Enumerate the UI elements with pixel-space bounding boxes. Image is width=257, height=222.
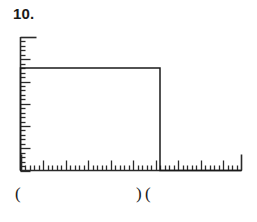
- x-axis-ticks: [22, 155, 242, 171]
- figure-page: 10. ( ) (: [0, 0, 257, 222]
- origin-paren-label: (: [15, 185, 21, 202]
- axis-lines: [20, 37, 242, 171]
- pulse-function-chart: [0, 0, 257, 222]
- y-axis-ticks: [21, 38, 37, 172]
- pulse-curve: [21, 68, 242, 170]
- pulse-end-open-paren-label: (: [145, 185, 151, 202]
- pulse-end-close-paren-label: ): [136, 185, 142, 202]
